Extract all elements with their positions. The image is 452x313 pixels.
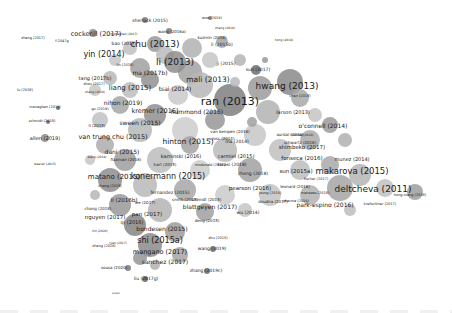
node-label[interactable]: joung (2015) bbox=[259, 192, 282, 196]
node-label[interactable]: dani (2015) bbox=[105, 149, 140, 155]
node-label[interactable]: fernandez (2015) bbox=[151, 191, 190, 196]
node-label[interactable]: ryan (2017) bbox=[109, 242, 127, 245]
node-label[interactable]: ma (2014) bbox=[225, 140, 249, 145]
node-label[interactable]: f-2047g bbox=[55, 40, 68, 44]
node-label[interactable]: gu (2019) bbox=[91, 108, 108, 112]
node-label[interactable]: zhang (2017) bbox=[21, 37, 44, 41]
node-label[interactable]: nihon (2019) bbox=[104, 100, 143, 106]
node-label[interactable]: shimbeko (2017) bbox=[279, 145, 326, 151]
node-label[interactable]: deng (2015) bbox=[195, 219, 220, 223]
node-label[interactable]: tang (2017b) bbox=[79, 76, 112, 81]
node-label[interactable]: bondesen (2015) bbox=[136, 226, 187, 232]
node-label[interactable]: lee (2017) bbox=[135, 201, 156, 205]
node-label[interactable]: krefschiner (2017) bbox=[364, 203, 396, 207]
node-label[interactable]: monaghan (2019) bbox=[29, 106, 60, 110]
node-label[interactable]: munez (2014) bbox=[334, 157, 369, 162]
node-label[interactable]: hwang (2013) bbox=[256, 82, 319, 91]
node-label[interactable]: sherlock (2015) bbox=[132, 19, 167, 24]
node-label[interactable]: lu (2018) bbox=[17, 89, 33, 93]
node-label[interactable]: shi (2015a) bbox=[137, 237, 183, 245]
node-label[interactable]: hong (2018) bbox=[275, 39, 293, 42]
node-label[interactable]: ran (2013) bbox=[201, 96, 259, 107]
node-label[interactable]: pan (2017) bbox=[132, 212, 162, 218]
node-label[interactable]: hill (2020) bbox=[92, 230, 107, 233]
node-label[interactable]: weaver (2015) bbox=[34, 163, 56, 166]
node-label[interactable]: sween (2015) bbox=[119, 120, 160, 126]
node-label[interactable]: hart (2015) bbox=[154, 163, 177, 167]
node-label[interactable]: schmidt (2018) bbox=[29, 120, 56, 124]
node-label[interactable]: lin (2018) bbox=[117, 64, 134, 68]
node-label[interactable]: chen (2018) bbox=[289, 95, 310, 99]
node-label[interactable]: wang (2018) bbox=[87, 156, 106, 159]
node-label[interactable]: konermann (2015) bbox=[131, 173, 205, 181]
node-label[interactable]: zhang (2018) bbox=[85, 91, 105, 94]
node-label[interactable]: fonseca (2016) bbox=[281, 156, 322, 162]
node-label[interactable]: qi (2016) bbox=[121, 220, 144, 225]
node-label[interactable]: mali (2013) bbox=[186, 76, 229, 84]
node-label[interactable]: sanchez (2017) bbox=[142, 259, 188, 265]
node-label[interactable]: zhang (2018) bbox=[215, 27, 235, 30]
node-label[interactable]: zhang (2019) bbox=[92, 245, 115, 249]
node-label[interactable]: makarova (2015) bbox=[315, 167, 388, 176]
node-label[interactable]: o'connell (2014) bbox=[299, 123, 348, 129]
node-label[interactable]: allen (2019) bbox=[30, 136, 60, 141]
node-label[interactable]: hong-xiang (2018) bbox=[394, 194, 426, 198]
node-label[interactable]: cheng (2018) bbox=[238, 172, 268, 177]
node-label[interactable]: li (2015) bbox=[89, 124, 106, 128]
node-label[interactable]: wang (2016a) bbox=[158, 30, 186, 34]
node-label[interactable]: li (2016b) bbox=[111, 198, 138, 204]
node-label[interactable]: sun (2015a) bbox=[279, 169, 312, 175]
node-label[interactable]: wilson bbox=[112, 293, 120, 296]
node-label[interactable]: zhu (2015) bbox=[208, 237, 227, 241]
node-label[interactable]: li (2013) bbox=[156, 58, 194, 67]
node-label[interactable]: van trung chu (2015) bbox=[78, 134, 147, 141]
node-label[interactable]: mangano (2017) bbox=[133, 249, 187, 256]
node-label[interactable]: hinton (2015) bbox=[162, 138, 213, 146]
node-label[interactable]: kuzmin (2018) bbox=[198, 36, 227, 40]
node-label[interactable]: ma (2017b) bbox=[132, 70, 167, 76]
node-label[interactable]: mendez (2018) bbox=[291, 134, 314, 137]
node-label[interactable]: kaminski (2016) bbox=[161, 154, 201, 159]
node-label[interactable]: woo (2019) bbox=[202, 17, 222, 21]
node-label[interactable]: larson (2013) bbox=[276, 110, 310, 115]
node-label[interactable]: mcdonald (2017) bbox=[195, 164, 225, 168]
node-label[interactable]: chang (2018) bbox=[85, 207, 112, 211]
node-label[interactable]: fischer (2017) bbox=[304, 178, 329, 182]
node-label[interactable]: wu (2014) bbox=[237, 211, 260, 216]
node-label[interactable]: zhou (2017) bbox=[83, 83, 104, 87]
node-label[interactable]: leonard (2016) bbox=[280, 185, 310, 189]
node-label[interactable]: blattgeyen (2017) bbox=[183, 204, 237, 210]
node-label[interactable]: van kempen (2016) bbox=[210, 130, 249, 134]
node-label[interactable]: schmidt (2015) bbox=[191, 198, 222, 202]
node-label[interactable]: chang (2018) bbox=[98, 185, 121, 189]
label-layer: cockerill (2017)f-2047gsherlock (2015)wo… bbox=[0, 0, 452, 313]
node-label[interactable]: liu (2017g) bbox=[134, 277, 159, 282]
node-label[interactable]: monaghan (2017) bbox=[111, 33, 138, 36]
node-label[interactable]: sousa (2020) bbox=[101, 266, 127, 270]
node-label[interactable]: hammond (2016) bbox=[171, 109, 223, 115]
node-label[interactable]: zhang (2019c) bbox=[190, 269, 223, 274]
node-label[interactable]: liang (2015) bbox=[109, 85, 152, 92]
node-label[interactable]: flaxman (2016) bbox=[111, 158, 142, 162]
node-label[interactable]: menezes (2018) bbox=[301, 192, 330, 196]
node-label[interactable]: yin (2014) bbox=[83, 51, 124, 59]
node-label[interactable]: park-espino (2016) bbox=[296, 202, 353, 208]
node-label[interactable]: nguyen (2017) bbox=[85, 215, 126, 221]
node-label[interactable]: sun (2017) bbox=[246, 68, 270, 73]
node-label[interactable]: deltcheva (2011) bbox=[334, 185, 411, 194]
node-label[interactable]: kremer (2016) bbox=[132, 108, 179, 115]
node-label[interactable]: li (2015b) bbox=[211, 43, 233, 48]
node-label[interactable]: carmiel (2015) bbox=[218, 154, 255, 159]
node-label[interactable]: chu (2013) bbox=[130, 40, 179, 49]
network-canvas[interactable]: cockerill (2017)f-2047gsherlock (2015)wo… bbox=[0, 0, 452, 313]
node-label[interactable]: wang (2019) bbox=[198, 247, 227, 252]
node-label[interactable]: ji (2015) bbox=[217, 62, 236, 67]
node-label[interactable]: tsai (2014) bbox=[159, 86, 192, 92]
